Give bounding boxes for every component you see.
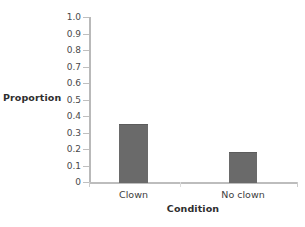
y-tick-label: 0.7 — [53, 62, 81, 72]
y-axis-line — [89, 17, 91, 182]
y-tick-label: 0.5 — [53, 95, 81, 105]
x-tick-label: No clown — [198, 189, 288, 200]
y-tick-mark — [83, 83, 89, 84]
x-tick-label: Clown — [89, 189, 179, 200]
y-tick-label: 0.2 — [53, 144, 81, 154]
x-axis-title: Condition — [88, 203, 298, 214]
y-tick-label: 0.1 — [53, 161, 81, 171]
x-tick-mark — [297, 182, 298, 187]
y-tick-label: 0.9 — [53, 29, 81, 39]
y-tick-mark — [83, 166, 89, 167]
y-tick-label: 0.8 — [53, 45, 81, 55]
y-tick-mark — [83, 116, 89, 117]
y-tick-label: 0.6 — [53, 78, 81, 88]
plot-area: 00.10.20.30.40.50.60.70.80.91.0 ClownNo … — [89, 17, 297, 182]
y-tick-label: 1.0 — [53, 12, 81, 22]
bar — [229, 152, 257, 183]
y-tick-mark — [83, 100, 89, 101]
bar — [119, 124, 148, 183]
y-tick-mark — [83, 133, 89, 134]
y-tick-mark — [83, 50, 89, 51]
y-tick-label: 0.4 — [53, 111, 81, 121]
y-tick-mark — [83, 149, 89, 150]
y-tick-mark — [83, 67, 89, 68]
x-tick-mark — [180, 182, 181, 187]
y-tick-mark — [83, 17, 89, 18]
y-tick-label: 0 — [53, 177, 81, 187]
x-tick-mark — [89, 182, 90, 187]
bar-chart-figure: Proportion 00.10.20.30.40.50.60.70.80.91… — [0, 0, 305, 227]
y-tick-mark — [83, 34, 89, 35]
y-tick-label: 0.3 — [53, 128, 81, 138]
